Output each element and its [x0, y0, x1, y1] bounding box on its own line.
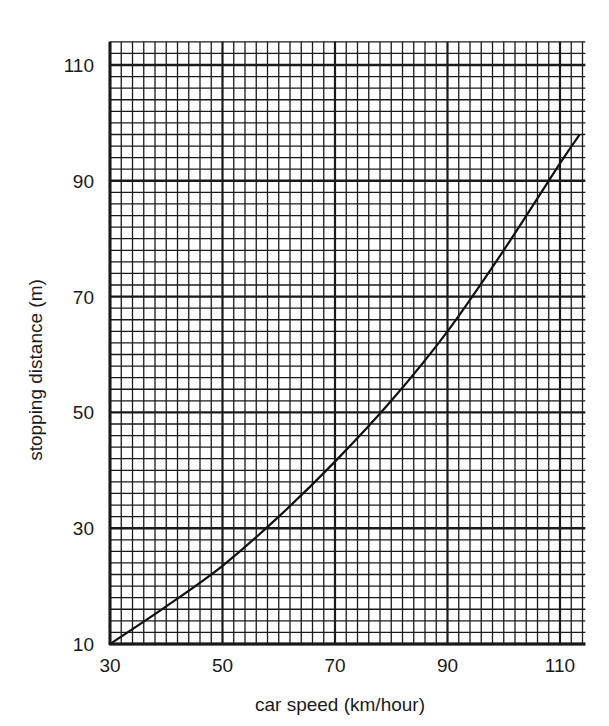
y-axis-label: stopping distance (m)	[25, 279, 46, 461]
x-tick-label: 30	[99, 655, 120, 676]
y-tick-label: 10	[73, 634, 94, 655]
y-tick-label: 70	[73, 287, 94, 308]
x-tick-label: 110	[545, 655, 575, 676]
y-tick-labels: 1030507090110	[64, 55, 94, 655]
x-tick-label: 70	[324, 655, 345, 676]
y-tick-label: 50	[73, 402, 94, 423]
stopping-distance-chart: 30507090110 1030507090110 car speed (km/…	[0, 0, 609, 726]
y-tick-label: 30	[73, 518, 94, 539]
y-tick-label: 110	[64, 55, 94, 76]
x-tick-label: 50	[212, 655, 233, 676]
x-tick-labels: 30507090110	[99, 655, 575, 676]
x-axis-label: car speed (km/hour)	[255, 694, 425, 715]
x-tick-label: 90	[437, 655, 458, 676]
y-tick-label: 90	[73, 171, 94, 192]
minor-grid	[110, 42, 585, 644]
